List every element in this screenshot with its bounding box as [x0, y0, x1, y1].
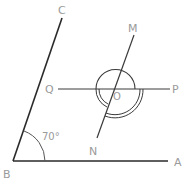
- label-q: Q: [45, 83, 54, 96]
- label-a: A: [174, 156, 182, 169]
- geometry-diagram: A B C M N O P Q 70°: [0, 0, 185, 186]
- label-o: O: [113, 91, 121, 102]
- label-p: P: [172, 83, 179, 96]
- segment-mn: [97, 35, 134, 138]
- angle-label-70: 70°: [42, 131, 60, 142]
- label-c: C: [58, 4, 66, 17]
- label-m: M: [128, 22, 138, 35]
- angle-arc-lower-inner: [106, 89, 140, 115]
- label-b: B: [3, 168, 11, 181]
- label-n: N: [89, 145, 97, 158]
